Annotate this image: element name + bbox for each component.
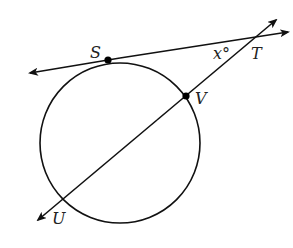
- label-u: U: [52, 209, 66, 228]
- tangent-line: [120, 32, 288, 58]
- label-v: V: [195, 89, 208, 108]
- geometry-diagram: S x° T V U: [0, 0, 293, 248]
- secant-line-lower: [38, 120, 157, 220]
- label-angle-x: x°: [213, 44, 230, 63]
- point-s-dot: [104, 56, 111, 63]
- label-s: S: [90, 43, 101, 62]
- point-v-dot: [182, 92, 189, 99]
- secant-line: [157, 20, 276, 120]
- label-t: T: [251, 44, 263, 63]
